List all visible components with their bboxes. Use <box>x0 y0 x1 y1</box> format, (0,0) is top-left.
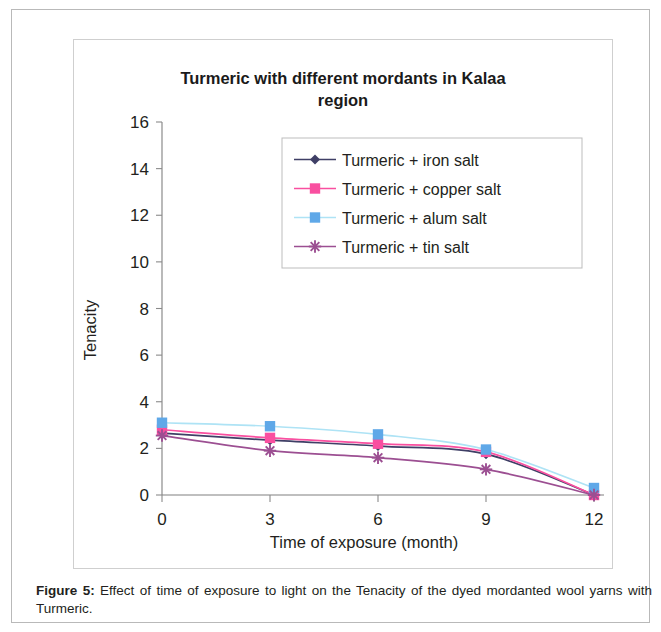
legend-marker <box>310 212 320 222</box>
chart-title-line-1: Turmeric with different mordants in Kala… <box>180 69 506 87</box>
y-tick-label: 14 <box>130 160 149 179</box>
figure-caption: Figure 5: Effect of time of exposure to … <box>36 582 652 618</box>
series-group <box>156 418 600 502</box>
figure-number-label: Figure 5: <box>36 583 95 598</box>
y-tick-label: 10 <box>130 253 149 272</box>
y-tick-label: 12 <box>130 206 149 225</box>
data-point-marker <box>157 418 167 428</box>
y-tick-label: 0 <box>140 486 149 505</box>
data-point-marker <box>372 452 384 464</box>
legend-marker <box>309 240 321 252</box>
chart-plot-area: Turmeric with different mordants in Kala… <box>73 39 613 569</box>
legend-label: Turmeric + tin salt <box>342 239 470 256</box>
x-tick-label: 0 <box>157 510 166 529</box>
figure-container: Turmeric with different mordants in Kala… <box>0 0 661 632</box>
legend-label: Turmeric + iron salt <box>342 152 479 169</box>
legend-marker <box>310 183 320 193</box>
figure-frame: Turmeric with different mordants in Kala… <box>11 9 650 623</box>
x-axis-title: Time of exposure (month) <box>270 533 458 551</box>
x-tick-label: 3 <box>265 510 274 529</box>
chart-title-line-2: region <box>318 91 368 109</box>
chart-title-group: Turmeric with different mordants in Kala… <box>180 69 506 109</box>
y-tick-label: 4 <box>140 393 149 412</box>
y-tick-label: 6 <box>140 346 149 365</box>
data-point-marker <box>588 489 600 501</box>
y-tick-label: 2 <box>140 439 149 458</box>
x-tick-label: 12 <box>585 510 604 529</box>
data-point-marker <box>373 439 383 449</box>
y-axis: 0246810121416 <box>130 113 162 505</box>
legend-label: Turmeric + copper salt <box>342 181 502 198</box>
y-tick-label: 16 <box>130 113 149 132</box>
chart-legend: Turmeric + iron saltTurmeric + copper sa… <box>282 138 582 268</box>
legend-label: Turmeric + alum salt <box>342 210 487 227</box>
data-point-marker <box>264 445 276 457</box>
y-axis-title: Tenacity <box>81 299 99 360</box>
figure-caption-text: Effect of time of exposure to light on t… <box>36 583 652 616</box>
data-point-marker <box>265 421 275 431</box>
x-tick-label: 6 <box>373 510 382 529</box>
chart-svg: Turmeric with different mordants in Kala… <box>74 40 612 568</box>
data-point-marker <box>480 463 492 475</box>
data-point-marker <box>265 433 275 443</box>
y-tick-label: 8 <box>140 300 149 319</box>
data-point-marker <box>481 444 491 454</box>
data-point-marker <box>373 429 383 439</box>
x-tick-label: 9 <box>481 510 490 529</box>
x-axis: 036912 <box>157 495 604 529</box>
